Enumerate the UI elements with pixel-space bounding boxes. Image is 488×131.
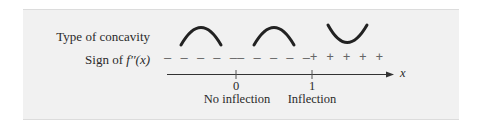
concave-down-icon [181,28,221,46]
sign-positive: + + + + + [310,50,384,64]
annotation-inflection: Inflection [288,92,337,107]
sign-negative-1: – – – – – [164,51,238,65]
concave-up-icon [328,25,367,43]
annotation-no-inflection: No inflection [204,92,270,107]
x-axis-arrow-icon [386,72,394,78]
sign-negative-2: – – – – – [237,51,311,65]
axis-variable-label: x [400,66,406,81]
concavity-diagram-graphics [0,0,488,131]
concave-down-icon [254,28,294,46]
